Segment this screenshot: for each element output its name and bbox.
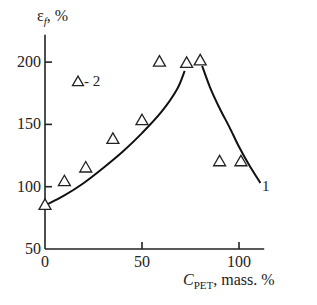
y-axis-label-symbol: ε (37, 7, 44, 24)
x-tick-label: 50 (122, 254, 162, 270)
triangle-marker (107, 133, 119, 143)
triangle-marker (194, 54, 206, 64)
y-tick-label: 100 (1, 179, 41, 195)
y-tick-label: 200 (1, 54, 41, 70)
x-tick-label: 0 (25, 254, 65, 270)
fit-curve-1 (45, 66, 260, 206)
triangle-marker (181, 57, 193, 67)
y-axis-label: εf, % (37, 8, 68, 27)
x-axis-label-symbol: C (183, 271, 194, 288)
axes (45, 35, 264, 249)
x-axis-label-subscript: PET (194, 279, 214, 291)
legend-triangle-icon (73, 76, 84, 86)
triangle-marker (73, 76, 84, 86)
y-tick-label: 150 (1, 116, 41, 132)
curve-label-1: 1 (262, 179, 270, 194)
x-axis-label-unit: , mass. % (213, 271, 274, 288)
triangle-marker (80, 162, 92, 172)
x-axis-label: CPET, mass. % (183, 272, 275, 291)
x-tick-label: 100 (219, 254, 259, 270)
triangle-marker (153, 56, 165, 66)
triangle-marker (58, 175, 70, 185)
triangle-marker (136, 114, 148, 124)
curve-segment (202, 66, 260, 183)
triangle-marker (214, 155, 226, 165)
legend-text: - 2 (84, 74, 100, 89)
y-axis-label-unit: , % (47, 7, 68, 24)
